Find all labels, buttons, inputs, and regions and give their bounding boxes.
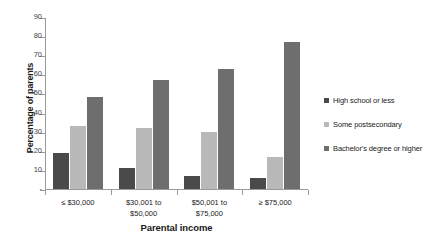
- legend-item[interactable]: Some postsecondary: [324, 120, 436, 144]
- legend-item[interactable]: Bachelor's degree or higher: [324, 144, 436, 168]
- bar: [119, 168, 135, 189]
- x-axis-title: Parental income: [45, 222, 308, 233]
- legend-swatch-high-school-icon: [324, 98, 329, 103]
- y-tick-label: 50: [34, 88, 42, 97]
- x-category-label: $30,001 to $50,000: [111, 197, 177, 219]
- bar: [267, 157, 283, 189]
- bar: [70, 126, 86, 189]
- bar: [218, 69, 234, 189]
- legend-item-label: High school or less: [333, 96, 394, 105]
- y-tick-label: 70: [34, 50, 42, 59]
- x-category-label: ≤ $30,000: [45, 197, 111, 208]
- x-tick-mark: [45, 190, 46, 195]
- y-tick-label: -: [40, 184, 43, 193]
- plot-area: -102030405060708090: [45, 18, 308, 190]
- legend-swatch-some-postsecondary-icon: [324, 122, 329, 127]
- bar: [136, 128, 152, 189]
- bar: [53, 153, 69, 189]
- bar: [184, 176, 200, 189]
- x-tick-mark: [308, 190, 309, 195]
- y-tick-label: 10: [34, 165, 42, 174]
- bar-group: [184, 18, 234, 189]
- bar: [153, 80, 169, 189]
- x-tick-mark: [111, 190, 112, 195]
- x-tick-mark: [177, 190, 178, 195]
- bar-chart: Percentage of parents -10203040506070809…: [0, 0, 436, 242]
- y-tick-label: 80: [34, 31, 42, 40]
- y-tick-label: 30: [34, 127, 42, 136]
- bar: [284, 42, 300, 189]
- bar-group: [119, 18, 169, 189]
- x-tick-mark: [242, 190, 243, 195]
- bar-group: [250, 18, 300, 189]
- legend-swatch-bachelors-icon: [324, 146, 329, 151]
- x-category-label: $50,001 to $75,000: [177, 197, 243, 219]
- y-tick-label: 40: [34, 108, 42, 117]
- bar: [201, 132, 217, 189]
- legend-item[interactable]: High school or less: [324, 96, 436, 120]
- bar-group: [53, 18, 103, 189]
- y-tick-label: 20: [34, 146, 42, 155]
- chart-legend: High school or lessSome postsecondaryBac…: [324, 96, 436, 168]
- bar: [87, 97, 103, 189]
- y-axis-line: [45, 18, 46, 190]
- y-tick-label: 90: [34, 12, 42, 21]
- legend-item-label: Bachelor's degree or higher: [333, 144, 422, 153]
- legend-item-label: Some postsecondary: [333, 120, 402, 129]
- bar: [250, 178, 266, 189]
- x-category-label: ≥ $75,000: [242, 197, 308, 208]
- y-tick-label: 60: [34, 69, 42, 78]
